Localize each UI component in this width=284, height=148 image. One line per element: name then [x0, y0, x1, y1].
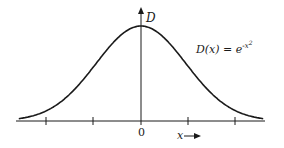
- y-axis-label: D: [146, 12, 156, 24]
- formula-label: D(x) = e-x2: [196, 40, 252, 55]
- x-arrow-head-icon: [194, 133, 201, 139]
- formula-pow: 2: [249, 39, 253, 46]
- x-axis-label: x: [177, 130, 183, 141]
- origin-label: 0: [138, 127, 145, 138]
- gaussian-diagram: D 0 x D(x) = e-x2: [0, 0, 284, 148]
- y-axis-arrow-icon: [138, 7, 144, 14]
- formula-lhs: D(x) = e: [196, 43, 242, 56]
